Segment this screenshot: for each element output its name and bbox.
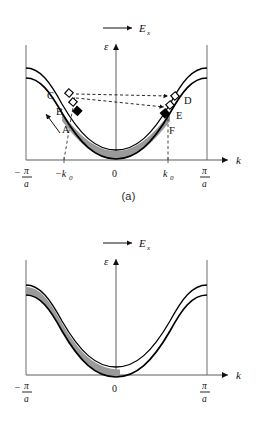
point-label-b: B bbox=[56, 106, 63, 117]
field-arrow-subscript-b: x bbox=[146, 244, 151, 252]
field-arrow-subscript-a: x bbox=[146, 29, 151, 37]
tick-numerator-pos-pi-a: π bbox=[202, 166, 207, 176]
field-arrow-a: E x bbox=[103, 22, 151, 37]
panel-a: E x k ε bbox=[0, 0, 257, 215]
tick-numerator-neg-pi-b: π bbox=[24, 381, 29, 391]
x-axis-label-b: k bbox=[236, 369, 242, 381]
tick-subscript-neg-k0: 0 bbox=[69, 174, 73, 182]
point-label-d: D bbox=[184, 95, 192, 106]
tick-subscript-pos-k0: 0 bbox=[170, 174, 174, 182]
field-arrow-label-b: E bbox=[138, 237, 146, 249]
band-diagram-a: E x k ε bbox=[0, 0, 257, 190]
dashed-transition-c-to-d bbox=[76, 94, 168, 96]
tick-label-neg-k0: −k bbox=[55, 168, 67, 179]
panel-b: E x k ε − π a 0 π a (b) bbox=[0, 215, 257, 422]
marker-filled-square-a bbox=[73, 106, 82, 115]
field-arrow-label-a: E bbox=[138, 22, 146, 34]
marker-open-square-b bbox=[69, 98, 77, 106]
ticklabel-neg-pi-b: − π a bbox=[14, 381, 32, 404]
ticklabel-pos-k0-a: k 0 bbox=[163, 168, 174, 182]
ticklabel-neg-k0-a: −k 0 bbox=[55, 168, 73, 182]
point-label-a: A bbox=[62, 124, 70, 135]
tick-denominator-pos-pi-b: a bbox=[202, 394, 207, 404]
y-axis-label-a: ε bbox=[104, 40, 109, 52]
tick-label-pos-k0: k bbox=[163, 168, 168, 179]
tick-denominator-pos-pi-a: a bbox=[202, 179, 207, 189]
field-arrow-b: E x bbox=[103, 237, 151, 252]
point-label-f: F bbox=[169, 125, 175, 136]
ticklabel-pos-pi-b: π a bbox=[200, 381, 210, 404]
tick-sign-neg-pi-b: − bbox=[14, 382, 21, 393]
ticklabel-neg-pi-a: − π a bbox=[14, 166, 32, 189]
ticklabel-zero-a: 0 bbox=[112, 168, 117, 179]
dashed-transition-b-to-e bbox=[76, 98, 164, 107]
point-label-c: C bbox=[47, 90, 54, 101]
caption-a: (a) bbox=[0, 190, 257, 202]
tick-numerator-neg-pi-a: π bbox=[24, 166, 29, 176]
marker-chain-left-a bbox=[65, 89, 82, 116]
tick-denominator-neg-pi-a: a bbox=[24, 179, 29, 189]
tick-denominator-neg-pi-b: a bbox=[24, 394, 29, 404]
point-label-e: E bbox=[176, 110, 182, 121]
x-axis-label-a: k bbox=[236, 154, 242, 166]
band-diagram-b: E x k ε − π a 0 π a bbox=[0, 215, 257, 405]
tick-numerator-pos-pi-b: π bbox=[202, 381, 207, 391]
ticklabel-pos-pi-a: π a bbox=[200, 166, 210, 189]
y-axis-label-b: ε bbox=[104, 255, 109, 267]
tick-sign-neg-pi-a: − bbox=[14, 167, 21, 178]
ticklabel-zero-b: 0 bbox=[112, 383, 117, 394]
marker-open-square-c bbox=[65, 89, 73, 97]
